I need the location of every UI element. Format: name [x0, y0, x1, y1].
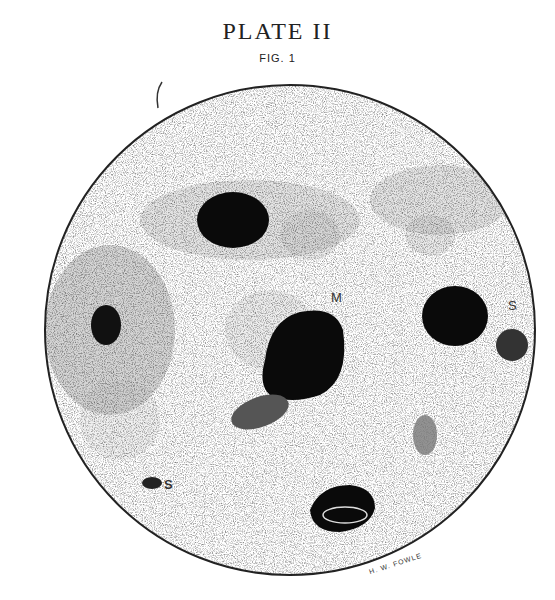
cell-nucleus — [197, 192, 269, 248]
label-s-left: S — [164, 477, 173, 492]
label-m: M — [331, 290, 342, 305]
cell-s — [496, 329, 528, 361]
label-s-right: S — [508, 298, 517, 313]
cell-nucleus — [422, 286, 488, 346]
microscope-field-illustration — [0, 0, 555, 600]
cell-nucleus — [91, 305, 121, 345]
cell-granular — [413, 415, 437, 455]
